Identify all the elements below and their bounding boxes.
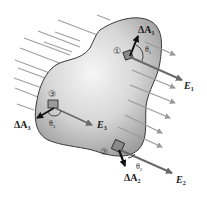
area-label-3: ΔA3 <box>14 119 31 131</box>
field-vector-E2 <box>120 150 172 173</box>
patch-3-number: ③ <box>48 89 56 99</box>
closed-surface <box>35 18 161 156</box>
field-label-E1: E1 <box>183 80 194 92</box>
patch-1-number: ① <box>113 46 121 56</box>
patch-2: ② ΔA2 θ2 E2 <box>100 139 186 186</box>
area-label-2: ΔA2 <box>124 172 141 184</box>
area-element-3 <box>48 100 58 108</box>
gauss-surface-diagram: ① ΔA1 θ1 E1 ③ ΔA3 θ3 E3 ② ΔA2 θ2 E2 <box>0 0 207 198</box>
patch-2-number: ② <box>100 147 108 157</box>
theta-label-2: θ2 <box>136 162 143 172</box>
field-label-E2: E2 <box>175 174 186 186</box>
